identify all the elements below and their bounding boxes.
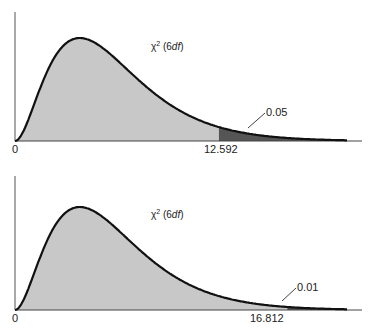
tail-area-label: 0.05 <box>266 106 287 118</box>
tail-leader-line <box>282 288 296 301</box>
chart-panel-bottom: 0 16.812 0.01 χ2 (6df) <box>0 166 375 332</box>
chart-panel-top: 0 12.592 0.05 χ2 (6df) <box>0 0 375 166</box>
x-tick-zero: 0 <box>12 312 18 324</box>
distribution-label: χ2 (6df) <box>151 208 184 220</box>
distribution-label: χ2 (6df) <box>151 40 184 52</box>
critical-value-label: 12.592 <box>204 143 238 155</box>
chi-square-plot-top <box>0 0 375 166</box>
tail-leader-line <box>248 113 265 128</box>
critical-value-label: 16.812 <box>250 312 284 324</box>
tail-area-label: 0.01 <box>297 281 318 293</box>
chi-square-plot-bottom <box>0 166 375 332</box>
acceptance-region <box>15 38 219 141</box>
x-tick-zero: 0 <box>12 143 18 155</box>
